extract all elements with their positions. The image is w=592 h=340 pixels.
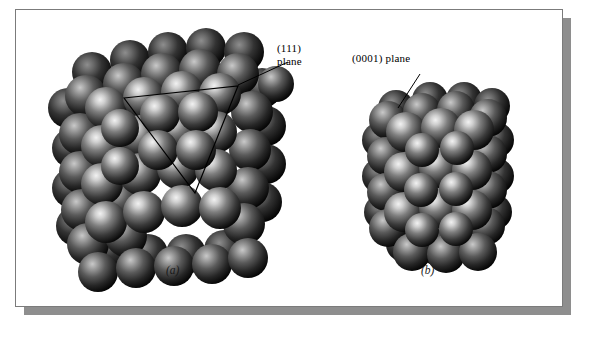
callout-111-line1: (111) xyxy=(277,42,302,55)
callout-111-plane: (111) plane xyxy=(277,42,302,67)
callout-0001-line1: (0001) plane xyxy=(352,52,410,65)
subfigure-caption-a: (a) xyxy=(166,264,179,276)
callout-111-line2: plane xyxy=(277,55,302,68)
cluster-a-spheres xyxy=(48,28,514,292)
subfigure-caption-b: (b) xyxy=(421,264,434,276)
callout-0001-plane: (0001) plane xyxy=(352,52,410,65)
figure-root: (111) plane (0001) plane (a) (b) xyxy=(0,0,592,340)
